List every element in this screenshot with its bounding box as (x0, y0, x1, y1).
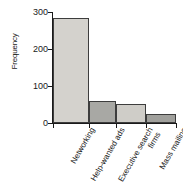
y-axis-label: Frequency (10, 17, 19, 87)
plot-area (53, 12, 176, 123)
y-tick-label-0: 0 (22, 119, 48, 128)
x-label-mass-mailing-line1: Mass mailing (158, 126, 183, 171)
bar-chart-figure: Frequency 300 200 100 0 Networking Help- (0, 0, 183, 194)
bar-mass-mailing (146, 114, 176, 123)
bar-executive-search-firms (116, 104, 146, 123)
x-label-networking-line1: Networking (69, 126, 97, 165)
bar-help-wanted-ads (89, 101, 116, 123)
x-axis-category-labels: Networking Help-wanted ads Executive sea… (53, 126, 183, 194)
bar-networking (53, 18, 89, 123)
y-tick-label-100: 100 (22, 82, 48, 91)
x-axis-line (52, 123, 176, 124)
y-axis-tick-labels: 300 200 100 0 (22, 0, 48, 194)
y-tick-label-300: 300 (22, 8, 48, 17)
y-tick-label-200: 200 (22, 45, 48, 54)
